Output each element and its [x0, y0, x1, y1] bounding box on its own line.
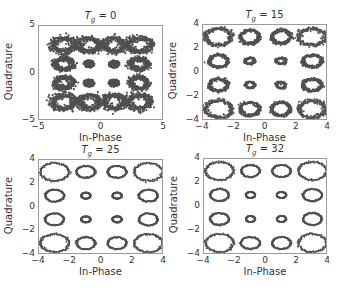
x-axis-label: In-Phase: [38, 132, 163, 143]
y-tick-label: 4: [181, 152, 200, 162]
x-tick-label: 5: [155, 121, 171, 131]
x-tick-label: 0: [257, 255, 273, 265]
y-tick-label: −2: [180, 90, 199, 100]
y-tick-label: 2: [16, 177, 35, 187]
plot-area: [203, 158, 327, 254]
x-tick-label: −2: [61, 255, 77, 265]
constellation-figure: Tg = 0 In-Phase Quadrature −505−505 Tg =…: [0, 0, 341, 291]
subplot-title: Tg = 25: [38, 144, 163, 158]
plot-area: [38, 159, 163, 254]
y-axis-label: Quadrature: [3, 31, 14, 111]
x-tick-label: −2: [226, 255, 242, 265]
x-axis-label: In-Phase: [203, 266, 327, 277]
subplot-title: Tg = 32: [203, 143, 327, 157]
x-axis-label: In-Phase: [38, 266, 163, 277]
y-tick-label: 4: [180, 18, 199, 28]
y-tick-label: 0: [16, 201, 35, 211]
x-tick-label: 4: [319, 255, 335, 265]
y-axis-label: Quadrature: [168, 165, 179, 245]
plot-area: [202, 24, 327, 120]
x-tick-label: −2: [225, 121, 241, 131]
x-tick-label: 4: [319, 121, 335, 131]
x-tick-label: 0: [93, 121, 109, 131]
constellation-scatter: [203, 25, 327, 120]
constellation-scatter: [204, 159, 327, 254]
y-tick-label: −5: [16, 114, 35, 124]
plot-area: [38, 25, 163, 120]
y-tick-label: 5: [16, 19, 35, 29]
subplot-title: Tg = 15: [202, 9, 327, 23]
constellation-scatter: [39, 26, 163, 120]
y-tick-label: 0: [16, 67, 35, 77]
y-tick-label: −4: [181, 248, 200, 258]
x-tick-label: 2: [288, 121, 304, 131]
x-tick-label: 4: [155, 255, 171, 265]
x-axis-label: In-Phase: [202, 132, 327, 143]
y-tick-label: 0: [180, 66, 199, 76]
y-tick-label: 0: [181, 200, 200, 210]
y-tick-label: −4: [16, 248, 35, 258]
x-tick-label: 2: [124, 255, 140, 265]
y-tick-label: −2: [181, 224, 200, 234]
y-tick-label: 4: [16, 153, 35, 163]
x-tick-label: 2: [288, 255, 304, 265]
y-tick-label: 2: [181, 176, 200, 186]
y-axis-label: Quadrature: [167, 31, 178, 111]
y-axis-label: Quadrature: [3, 165, 14, 245]
y-tick-label: 2: [180, 42, 199, 52]
x-tick-label: 0: [93, 255, 109, 265]
subplot-title: Tg = 0: [38, 10, 163, 24]
y-tick-label: −2: [16, 224, 35, 234]
y-tick-label: −4: [180, 114, 199, 124]
constellation-scatter: [39, 160, 163, 254]
x-tick-label: 0: [257, 121, 273, 131]
